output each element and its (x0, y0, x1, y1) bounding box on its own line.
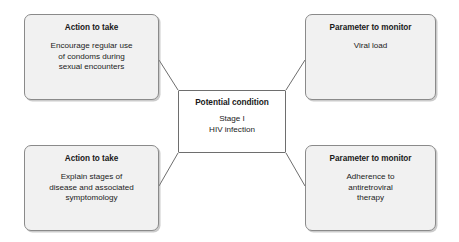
connector-center-to-top-left (159, 60, 178, 90)
diagram-canvas: Action to take Encourage regular use of … (0, 0, 459, 242)
node-title: Potential condition (195, 98, 269, 107)
node-parameter-bottom-right: Parameter to monitor Adherence to antire… (305, 145, 436, 231)
node-title: Parameter to monitor (330, 23, 412, 32)
connector-center-to-bottom-left (159, 153, 178, 186)
node-body: Stage I HIV infection (209, 114, 255, 135)
connector-center-to-top-right (286, 60, 305, 90)
node-body: Adherence to antiretroviral therapy (346, 172, 394, 204)
node-body: Encourage regular use of condoms during … (51, 41, 133, 73)
node-title: Action to take (65, 154, 118, 163)
node-title: Parameter to monitor (330, 154, 412, 163)
node-title: Action to take (65, 23, 118, 32)
node-body: Explain stages of disease and associated… (49, 172, 134, 204)
node-body: Viral load (354, 41, 388, 52)
node-parameter-top-right: Parameter to monitor Viral load (305, 14, 436, 100)
node-potential-condition: Potential condition Stage I HIV infectio… (178, 90, 286, 153)
node-action-top-left: Action to take Encourage regular use of … (24, 14, 159, 100)
node-action-bottom-left: Action to take Explain stages of disease… (24, 145, 159, 231)
connector-center-to-bottom-right (286, 153, 305, 186)
